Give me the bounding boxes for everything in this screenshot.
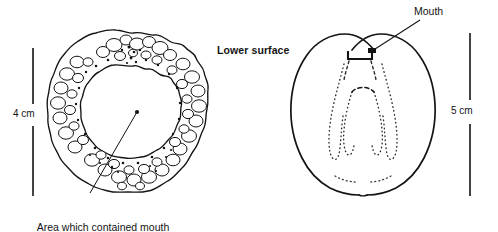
internal-structure-outer-dotted-right bbox=[382, 64, 397, 159]
lower-surface-title: Lower surface bbox=[217, 44, 290, 56]
mouth-area-caption: Area which contained mouth and jaws bbox=[8, 196, 198, 232]
internal-structure-inner-dotted bbox=[344, 92, 354, 155]
right-specimen-lower-surface bbox=[291, 20, 435, 196]
mouth-label: Mouth bbox=[414, 5, 443, 17]
left-specimen-ring bbox=[47, 30, 208, 193]
bottom-dotted-marks-left bbox=[335, 176, 356, 182]
scale-bar-left-label: 4 cm bbox=[13, 108, 35, 120]
figure-container: Lower surface Mouth 4 cm 5 cm Area which… bbox=[0, 0, 498, 232]
body-outline-bottom bbox=[359, 195, 367, 196]
mouth-area-caption-line-1: Area which contained mouth bbox=[8, 221, 198, 232]
bottom-dotted-marks-right bbox=[370, 176, 391, 182]
mouth-descending-dashes-left bbox=[344, 61, 349, 80]
internal-structure-inner-dotted-right bbox=[372, 92, 382, 155]
scale-bar-right-label: 5 cm bbox=[451, 105, 473, 117]
internal-structure-outer-dotted bbox=[329, 64, 344, 159]
internal-structure-arc-cap bbox=[352, 88, 374, 93]
mouth-leader-line bbox=[372, 20, 420, 51]
mouth-descending-dashes-right bbox=[371, 61, 376, 80]
